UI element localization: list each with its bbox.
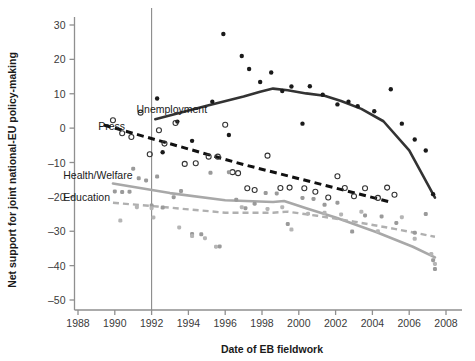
data-point <box>203 236 207 240</box>
data-point <box>172 195 176 199</box>
data-point <box>227 133 231 137</box>
data-point <box>323 203 327 207</box>
data-point <box>128 190 132 194</box>
data-point <box>240 54 244 58</box>
data-point <box>177 225 181 229</box>
data-point <box>433 267 437 271</box>
data-point <box>363 213 367 217</box>
data-point <box>221 32 225 36</box>
data-point <box>258 80 262 84</box>
data-point <box>234 198 238 202</box>
data-point <box>413 237 417 241</box>
data-point <box>280 89 284 93</box>
data-point <box>179 189 183 193</box>
data-point <box>118 219 122 223</box>
y-tick-label: 30 <box>54 19 66 31</box>
data-point <box>424 212 428 216</box>
data-point <box>289 84 293 88</box>
data-point <box>413 231 417 235</box>
series-label-health-welfare: Health/Welfare <box>63 169 132 181</box>
data-point <box>380 214 384 218</box>
data-point <box>289 228 293 232</box>
data-point <box>214 245 218 249</box>
x-tick-label: 1988 <box>66 317 90 329</box>
y-tick-label: –10 <box>48 157 66 169</box>
data-point <box>424 148 428 152</box>
y-tick-label: –30 <box>48 225 66 237</box>
x-tick-label: 2002 <box>324 317 348 329</box>
data-point <box>359 210 363 214</box>
data-point <box>190 139 194 143</box>
data-point <box>394 221 398 225</box>
data-point <box>335 201 339 205</box>
x-tick-label: 1990 <box>103 317 127 329</box>
data-point <box>218 244 222 248</box>
data-point <box>355 104 359 108</box>
y-axis-title: Net support for joint national-EU policy… <box>6 52 18 288</box>
data-point <box>335 102 339 106</box>
data-point <box>389 87 393 91</box>
data-point <box>120 190 124 194</box>
x-tick-label: 2008 <box>434 317 458 329</box>
data-point <box>300 196 304 200</box>
data-point <box>346 99 350 103</box>
chart-svg: 3020100–10–20–30–40–50198819901992199419… <box>0 0 475 361</box>
y-tick-label: 20 <box>54 53 66 65</box>
x-axis-title: Date of EB fieldwork <box>221 343 323 355</box>
data-point <box>372 109 376 113</box>
data-point <box>376 229 380 233</box>
data-point <box>144 178 148 182</box>
x-tick-label: 2004 <box>361 317 385 329</box>
series-label-education: Education <box>63 191 110 203</box>
data-point <box>312 197 316 201</box>
data-point <box>151 216 155 220</box>
data-point <box>240 205 244 209</box>
data-point <box>286 222 290 226</box>
y-tick-label: –50 <box>48 294 66 306</box>
data-point <box>113 189 117 193</box>
data-point <box>208 171 212 175</box>
y-tick-label: 0 <box>60 122 66 134</box>
data-point <box>400 215 404 219</box>
data-point <box>308 84 312 88</box>
data-point <box>431 192 435 196</box>
data-point <box>199 232 203 236</box>
series-label-unemployment: Unemployment <box>137 103 208 115</box>
data-point <box>160 150 164 154</box>
data-point <box>400 121 404 125</box>
y-tick-label: 10 <box>54 88 66 100</box>
data-point <box>269 70 273 74</box>
data-point <box>321 93 325 97</box>
y-tick-label: –40 <box>48 260 66 272</box>
data-point <box>155 175 159 179</box>
data-point <box>429 252 433 256</box>
x-tick-label: 2006 <box>398 317 422 329</box>
data-point <box>431 258 435 262</box>
data-point <box>280 205 284 209</box>
data-point <box>243 206 247 210</box>
data-point <box>306 212 310 216</box>
x-tick-label: 2000 <box>287 317 311 329</box>
x-tick-label: 1994 <box>177 317 201 329</box>
data-point <box>137 176 141 180</box>
x-tick-label: 1996 <box>214 317 238 329</box>
data-point <box>413 137 417 141</box>
data-point <box>247 67 251 71</box>
data-point <box>253 202 257 206</box>
data-point <box>433 262 437 266</box>
chart-figure: 3020100–10–20–30–40–50198819901992199419… <box>0 0 475 361</box>
data-point <box>150 206 154 210</box>
data-point <box>135 205 139 209</box>
data-point <box>350 230 354 234</box>
data-point <box>275 191 279 195</box>
data-point <box>300 121 304 125</box>
data-point <box>155 96 159 100</box>
x-tick-label: 1998 <box>250 317 274 329</box>
data-point <box>264 191 268 195</box>
data-point <box>323 211 327 215</box>
series-label-press: Press <box>98 120 125 132</box>
data-point <box>190 234 194 238</box>
data-point <box>210 99 214 103</box>
data-point <box>227 170 231 174</box>
x-tick-label: 1992 <box>140 317 164 329</box>
